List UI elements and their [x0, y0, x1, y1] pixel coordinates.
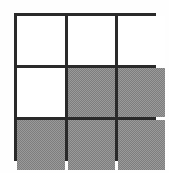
grid-cell-r3c2[interactable]: [68, 120, 115, 170]
grid-cell-r2c2[interactable]: [68, 68, 115, 117]
grid-cell-r1c1[interactable]: [17, 16, 65, 65]
grid-cell-r3c1[interactable]: [17, 120, 65, 170]
grid-cell-r1c2[interactable]: [68, 16, 115, 65]
grid-cell-r2c3[interactable]: [118, 68, 165, 117]
figure-canvas: [0, 0, 169, 173]
three-by-three-grid: [14, 13, 156, 161]
grid-cell-r1c3[interactable]: [118, 16, 165, 65]
grid-cell-r3c3[interactable]: [118, 120, 165, 170]
grid-cell-r2c1[interactable]: [17, 68, 65, 117]
